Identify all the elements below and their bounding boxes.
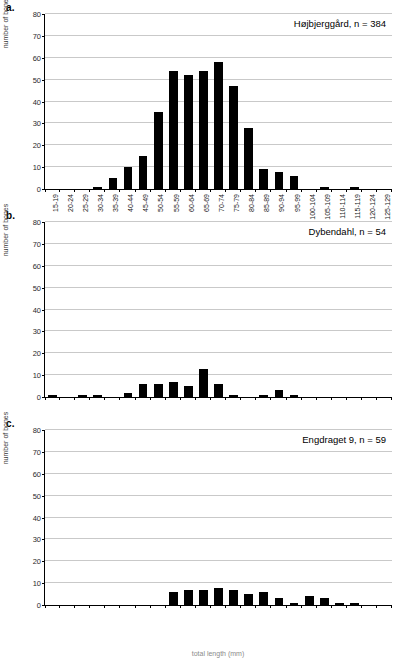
y-tick-label: 0	[37, 601, 41, 610]
x-tick-label: 40-44	[127, 194, 134, 212]
bars-a	[45, 14, 392, 189]
x-tick-label: 60-64	[188, 194, 195, 212]
x-tick-label-cell: 80-84	[241, 192, 256, 238]
y-tick-label: 80	[33, 10, 41, 19]
plot-frame-a: Højbjerggård, n = 384 01020304050607080	[44, 14, 392, 190]
plot-area-a: Højbjerggård, n = 384 01020304050607080	[44, 14, 392, 190]
x-tick-mark	[271, 397, 286, 401]
bar-slot	[377, 222, 392, 397]
x-tick-label-cell: 85-89	[256, 192, 271, 238]
y-tick-label: 60	[33, 469, 41, 478]
bar-slot	[120, 222, 135, 397]
bar-slot	[241, 430, 256, 605]
bar-slot	[362, 222, 377, 397]
bar-slot	[60, 14, 75, 189]
x-tick-label-cell: 90-94	[271, 192, 286, 238]
x-tick-mark	[181, 605, 196, 609]
y-axis-label-c: number of bones	[2, 388, 9, 488]
x-tick-label: 45-49	[142, 194, 149, 212]
bar	[109, 178, 118, 189]
bar-slot	[136, 222, 151, 397]
x-tick-label-cell: 125-129	[377, 192, 392, 238]
bar-slot	[256, 222, 271, 397]
x-tick-mark	[90, 397, 105, 401]
x-tick-mark	[271, 605, 286, 609]
x-tick-mark	[317, 397, 332, 401]
y-tick-label: 20	[33, 557, 41, 566]
bar-slot	[317, 222, 332, 397]
x-tick-label: 85-89	[263, 194, 270, 212]
bar	[139, 384, 148, 397]
bar-slot	[271, 222, 286, 397]
bar-slot	[151, 430, 166, 605]
x-tick-label: 20-24	[67, 194, 74, 212]
x-tick-mark	[362, 605, 377, 609]
x-tick-mark	[196, 605, 211, 609]
x-tick-marks-c	[45, 605, 392, 609]
x-tick-label-cell: 60-64	[180, 192, 195, 238]
x-tick-mark	[45, 397, 60, 401]
bars-c	[45, 430, 392, 605]
x-tick-label-cell: 75-79	[226, 192, 241, 238]
bar-slot	[75, 430, 90, 605]
x-tick-label-cell: 40-44	[120, 192, 135, 238]
x-tick-mark	[347, 397, 362, 401]
y-tick-label: 80	[33, 218, 41, 227]
y-axis-label-b: number of bones	[2, 180, 9, 280]
y-tick-label: 60	[33, 261, 41, 270]
bar-slot	[287, 430, 302, 605]
x-tick-label: 105-109	[324, 194, 331, 220]
x-tick-label-cell: 110-114	[331, 192, 346, 238]
bar-slot	[151, 222, 166, 397]
x-tick-mark	[332, 605, 347, 609]
bar	[199, 369, 208, 397]
x-tick-label-cell: 105-109	[316, 192, 331, 238]
plot-area-b: Dybendahl, n = 54 01020304050607080	[44, 222, 392, 398]
bar-slot	[75, 14, 90, 189]
plot-frame-c: Engdraget 9, n = 59 01020304050607080	[44, 430, 392, 606]
bar-slot	[302, 14, 317, 189]
bar-slot	[302, 222, 317, 397]
y-tick-label: 40	[33, 305, 41, 314]
x-tick-mark	[226, 605, 241, 609]
x-tick-label: 15-19	[52, 194, 59, 212]
bar	[259, 169, 268, 189]
bar-slot	[181, 222, 196, 397]
x-tick-mark	[120, 605, 135, 609]
x-tick-label-cell: 70-74	[210, 192, 225, 238]
bar-slot	[256, 430, 271, 605]
x-tick-mark	[302, 605, 317, 609]
x-tick-mark	[211, 605, 226, 609]
x-tick-mark	[136, 605, 151, 609]
bar-slot	[75, 222, 90, 397]
bar	[214, 62, 223, 189]
bar	[184, 75, 193, 189]
x-tick-mark	[256, 605, 271, 609]
bars-b	[45, 222, 392, 397]
x-tick-label: 110-114	[339, 194, 346, 219]
x-tick-mark	[332, 397, 347, 401]
x-tick-label: 115-119	[354, 194, 361, 219]
bar-slot	[332, 222, 347, 397]
bar-slot	[196, 430, 211, 605]
bar-slot	[45, 14, 60, 189]
x-tick-label-cell: 100-104	[301, 192, 316, 238]
x-tick-mark	[105, 397, 120, 401]
y-tick-label: 70	[33, 239, 41, 248]
bar-slot	[332, 14, 347, 189]
histogram-figure: a. number of bones Højbjerggård, n = 384…	[0, 0, 400, 658]
x-tick-label-cell: 35-39	[105, 192, 120, 238]
x-tick-mark	[347, 605, 362, 609]
y-tick-label: 10	[33, 163, 41, 172]
y-tick-label: 20	[33, 349, 41, 358]
x-tick-label: 95-99	[294, 194, 301, 212]
x-tick-mark	[151, 397, 166, 401]
x-tick-label: 120-124	[369, 194, 376, 220]
y-tick-label: 50	[33, 283, 41, 292]
x-tick-mark	[211, 397, 226, 401]
bar	[305, 596, 314, 605]
y-tick-label: 40	[33, 97, 41, 106]
bar-slot	[196, 14, 211, 189]
y-tick-label: 20	[33, 141, 41, 150]
bar	[184, 386, 193, 397]
